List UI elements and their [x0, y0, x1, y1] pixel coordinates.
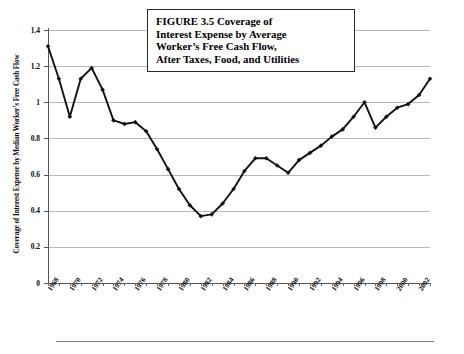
data-point-1975	[122, 122, 127, 127]
bottom-divider	[56, 341, 434, 342]
data-point-1974	[111, 118, 116, 123]
figure-title-line-3: Worker’s Free Cash Flow,	[156, 40, 347, 53]
bottom-caption	[56, 346, 436, 353]
figure-title-line-4: After Taxes, Food, and Utilities	[156, 53, 347, 66]
figure-3-5: 00.20.40.60.811.21.4 Coverage of Interes…	[0, 0, 464, 354]
figure-title-line-1: FIGURE 3.5 Coverage of	[156, 15, 347, 28]
data-point-1970	[68, 114, 73, 119]
data-point-1968	[46, 44, 51, 49]
figure-title-box: FIGURE 3.5 Coverage of Interest Expense …	[147, 9, 355, 72]
data-point-1969	[57, 76, 62, 81]
figure-title-line-2: Interest Expense by Average	[156, 28, 347, 41]
